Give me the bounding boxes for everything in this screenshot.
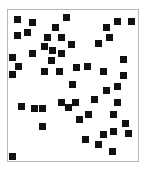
square-marker: [85, 111, 92, 118]
square-marker: [52, 24, 59, 31]
square-marker: [9, 54, 16, 61]
square-marker: [58, 50, 65, 57]
square-marker: [84, 63, 91, 70]
square-marker: [100, 68, 107, 75]
square-marker: [120, 56, 127, 63]
square-marker: [58, 34, 65, 41]
square-marker: [103, 87, 110, 94]
square-marker: [95, 141, 102, 148]
square-marker: [24, 29, 31, 36]
square-marker: [122, 120, 129, 127]
square-marker: [48, 57, 55, 64]
square-marker: [39, 123, 46, 130]
square-marker: [69, 81, 76, 88]
square-marker: [15, 63, 22, 70]
square-marker: [114, 83, 121, 90]
square-marker: [63, 14, 70, 21]
square-marker: [44, 34, 51, 41]
square-marker: [110, 128, 117, 135]
square-marker: [76, 116, 83, 123]
square-marker: [14, 16, 21, 23]
square-marker: [72, 99, 79, 106]
square-marker: [58, 99, 65, 106]
square-marker: [41, 43, 48, 50]
square-marker: [14, 32, 21, 39]
square-marker: [49, 47, 56, 54]
square-marker: [125, 130, 132, 137]
square-marker: [100, 131, 107, 138]
square-marker: [128, 18, 135, 25]
square-marker: [103, 24, 110, 31]
square-marker: [114, 18, 121, 25]
square-marker: [41, 68, 48, 75]
square-marker: [29, 19, 36, 26]
square-marker: [65, 104, 72, 111]
square-marker: [39, 105, 46, 112]
square-marker: [73, 64, 80, 71]
square-marker: [109, 148, 116, 155]
square-marker: [9, 71, 16, 78]
square-marker: [18, 103, 25, 110]
square-marker: [82, 136, 89, 143]
square-marker: [56, 68, 63, 75]
square-marker: [91, 96, 98, 103]
square-marker: [95, 40, 102, 47]
square-marker: [110, 111, 117, 118]
square-marker: [9, 153, 16, 160]
square-marker: [114, 99, 121, 106]
square-marker: [120, 72, 127, 79]
square-marker: [106, 34, 113, 41]
square-marker: [31, 105, 38, 112]
square-marker: [29, 50, 36, 57]
square-marker: [68, 41, 75, 48]
